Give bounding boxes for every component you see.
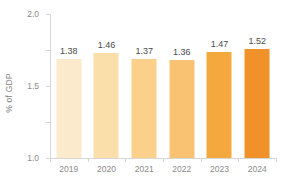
y-axis-title: % of GDP: [0, 0, 18, 186]
x-tick-mark: [88, 158, 89, 162]
bar-series: 1.381.461.371.361.471.52: [50, 14, 276, 158]
bar-value-label: 1.52: [248, 36, 266, 46]
x-tick-mark: [201, 158, 202, 162]
bar-value-label: 1.38: [60, 46, 78, 56]
bar-slot: 1.47: [201, 14, 239, 158]
bar-chart: % of GDP 0.00.51.01.52.0 1.381.461.371.3…: [0, 0, 283, 186]
x-tick-mark: [50, 158, 51, 162]
bar[interactable]: 1.46: [94, 53, 119, 158]
x-tick-label: 2023: [210, 164, 229, 174]
x-tick-mark: [238, 158, 239, 162]
bar-slot: 1.37: [125, 14, 163, 158]
y-tick-label: 1.0: [27, 153, 39, 163]
y-tick-label: 1.5: [27, 81, 39, 91]
bar[interactable]: 1.52: [245, 49, 270, 158]
bar-value-label: 1.47: [211, 39, 229, 49]
bar[interactable]: 1.47: [207, 52, 232, 158]
bar[interactable]: 1.36: [169, 60, 194, 158]
bar-slot: 1.52: [238, 14, 276, 158]
x-tick-mark: [276, 158, 277, 162]
x-tick-label: 2021: [135, 164, 154, 174]
x-tick-mark: [163, 158, 164, 162]
x-tick-mark: [125, 158, 126, 162]
bar-slot: 1.46: [88, 14, 126, 158]
x-tick-label: 2022: [172, 164, 191, 174]
bar-slot: 1.38: [50, 14, 88, 158]
x-axis-tick-labels: 201920202021202220232024: [50, 164, 276, 178]
plot-area: 0.00.51.01.52.0 1.381.461.371.361.471.52: [50, 14, 276, 159]
bar[interactable]: 1.37: [132, 59, 157, 158]
bar-value-label: 1.36: [173, 47, 191, 57]
bar-value-label: 1.46: [98, 40, 116, 50]
bar-value-label: 1.37: [135, 46, 153, 56]
y-tick-label: 2.0: [27, 9, 39, 19]
bar[interactable]: 1.38: [56, 59, 81, 158]
x-tick-label: 2020: [97, 164, 116, 174]
x-tick-label: 2024: [248, 164, 267, 174]
x-tick-label: 2019: [59, 164, 78, 174]
bar-slot: 1.36: [163, 14, 201, 158]
